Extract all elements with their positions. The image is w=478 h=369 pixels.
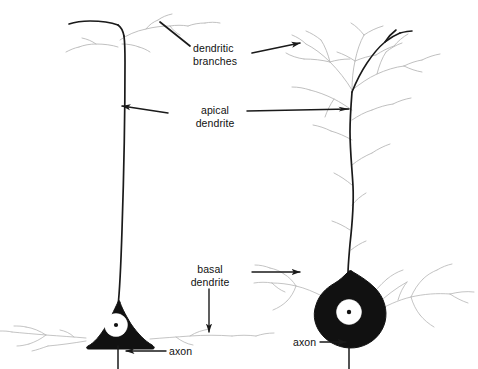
- right-neuron-apical-top: [352, 30, 412, 92]
- annotation-arrows: [122, 22, 349, 351]
- left-neuron-apical-top: [69, 21, 124, 36]
- neuron-diagram-svg: [0, 0, 478, 369]
- left-neuron-basal-dendrites-right: [150, 329, 274, 345]
- neuron-diagram: dendritic branches apical dendrite basal…: [0, 0, 478, 369]
- left-neuron-nucleolus: [114, 323, 118, 327]
- apical-dendrite-right-arrow: [247, 109, 349, 111]
- right-neuron: [254, 23, 474, 369]
- left-neuron: [0, 14, 274, 369]
- right-neuron-nucleolus: [347, 310, 351, 314]
- label-axon-left: axon: [169, 345, 192, 358]
- label-apical-dendrite: apical dendrite: [172, 104, 258, 129]
- apical-dendrite-left-arrow: [122, 106, 168, 113]
- right-neuron-apical-tuft: [286, 23, 440, 250]
- dendritic-branches-right-arrow: [252, 43, 300, 53]
- left-neuron-basal-dendrites: [0, 326, 86, 351]
- left-neuron-apical-trunk: [118, 36, 125, 306]
- label-dendritic-branches: dendritic branches: [193, 42, 237, 67]
- label-basal-dendrite: basal dendrite: [172, 263, 248, 288]
- label-axon-right: axon: [293, 336, 316, 349]
